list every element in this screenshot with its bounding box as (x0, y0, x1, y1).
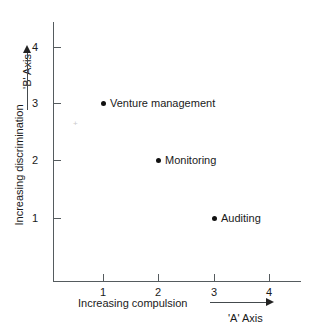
data-label-monitoring: Monitoring (165, 155, 216, 166)
y-axis-direction-arrow-shaft (27, 52, 28, 110)
arrow-up-icon (23, 45, 31, 53)
y-axis-tick-label-2: 2 (24, 155, 38, 166)
x-axis-line (53, 281, 301, 282)
y-axis-tick-2 (54, 160, 61, 161)
y-axis-line (53, 22, 54, 282)
x-axis-title: Increasing compulsion (78, 298, 187, 309)
x-axis-name-label: 'A' Axis (228, 313, 263, 324)
scatter-chart-figure: 4 3 2 1 1 2 3 4 Venture management Monit… (0, 0, 316, 334)
x-axis-tick-4 (269, 274, 270, 282)
data-point-monitoring (156, 158, 161, 163)
x-axis-tick-2 (158, 274, 159, 282)
x-axis-tick-3 (214, 274, 215, 282)
x-axis-tick-label-4: 4 (261, 287, 277, 298)
y-axis-tick-4 (54, 47, 61, 48)
x-axis-tick-label-3: 3 (206, 287, 222, 298)
data-point-venture-management (101, 101, 106, 106)
y-axis-tick-label-1: 1 (24, 213, 38, 224)
y-axis-tick-3 (54, 103, 61, 104)
scan-artifact: + (73, 122, 77, 126)
data-point-auditing (212, 216, 217, 221)
data-label-auditing: Auditing (221, 213, 261, 224)
data-label-venture-management: Venture management (110, 98, 215, 109)
x-axis-tick-1 (103, 274, 104, 282)
x-axis-direction-arrow-shaft (210, 302, 268, 303)
y-axis-title: Increasing discrimination (14, 106, 25, 226)
y-axis-tick-1 (54, 218, 61, 219)
arrow-right-icon (266, 298, 274, 306)
